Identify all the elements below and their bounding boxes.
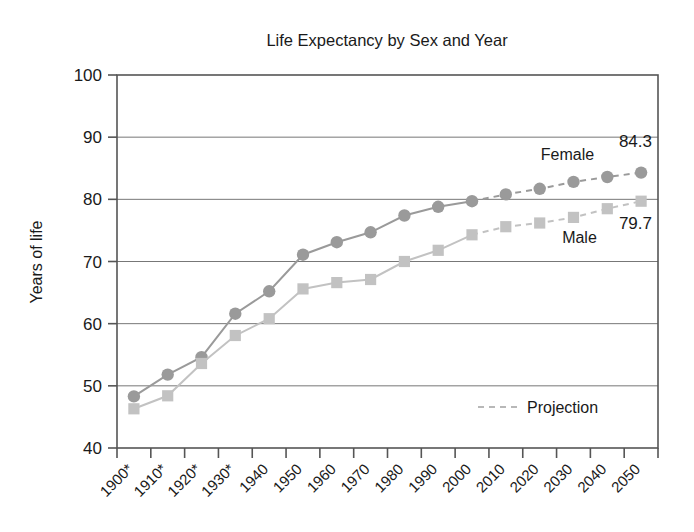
chart-title: Life Expectancy by Sex and Year [266, 31, 508, 49]
x-tick-label: 2010 [472, 460, 508, 496]
data-point-female [432, 201, 444, 213]
annotation-layer: FemaleMale84.379.7 [541, 132, 652, 247]
data-point-female [635, 166, 647, 178]
data-point-male [500, 221, 511, 232]
x-tick-label: 2040 [574, 460, 610, 496]
x-tick-label: 1910* [130, 460, 170, 500]
data-point-female [364, 226, 376, 238]
data-point-female [162, 368, 174, 380]
data-point-male [399, 256, 410, 267]
series-line-female [134, 201, 472, 396]
series-annotation-male: Male [562, 229, 597, 246]
y-tick-label: 70 [83, 253, 102, 272]
data-point-female [297, 249, 309, 261]
data-point-female [567, 176, 579, 188]
x-tick-label: 1900* [96, 460, 136, 500]
x-tick-label: 1920* [164, 460, 204, 500]
data-point-female [331, 236, 343, 248]
x-tick-label: 1940 [236, 460, 272, 496]
data-point-male [331, 277, 342, 288]
data-point-male [264, 313, 275, 324]
data-point-female [398, 209, 410, 221]
chart-legend: Projection [478, 399, 598, 416]
data-point-male [568, 212, 579, 223]
x-tick-label: 2030 [540, 460, 576, 496]
x-axis-ticks [117, 448, 658, 458]
x-tick-label: 1970 [337, 460, 373, 496]
data-point-male [365, 274, 376, 285]
data-point-male [196, 358, 207, 369]
data-point-male [602, 203, 613, 214]
data-point-female [500, 188, 512, 200]
series-projection-female [472, 173, 641, 202]
life-expectancy-line-chart: Life Expectancy by Sex and Year Years of… [0, 0, 694, 532]
data-point-female [466, 195, 478, 207]
series-projection-male [472, 201, 641, 235]
data-point-male [297, 283, 308, 294]
x-axis-tick-labels: 1900*1910*1920*1930*19401950196019701980… [96, 460, 643, 500]
data-point-male [466, 229, 477, 240]
x-tick-label: 2000 [439, 460, 475, 496]
x-tick-label: 2050 [608, 460, 644, 496]
data-point-male [433, 245, 444, 256]
data-point-female [128, 390, 140, 402]
data-point-female [601, 171, 613, 183]
data-point-female [534, 183, 546, 195]
series-annotation-female: Female [541, 146, 594, 163]
y-axis-tick-labels: 405060708090100 [74, 66, 102, 458]
x-tick-label: 1950 [269, 460, 305, 496]
series-line-male [134, 235, 472, 409]
data-point-male [230, 330, 241, 341]
y-tick-label: 100 [74, 66, 102, 85]
data-point-male [534, 217, 545, 228]
x-tick-label: 1930* [198, 460, 238, 500]
y-tick-label: 80 [83, 190, 102, 209]
y-axis-ticks [108, 75, 117, 448]
x-tick-label: 1980 [371, 460, 407, 496]
data-point-male [636, 196, 647, 207]
y-tick-label: 60 [83, 315, 102, 334]
x-tick-label: 1990 [405, 460, 441, 496]
legend-label-projection: Projection [527, 399, 598, 416]
data-point-female [263, 285, 275, 297]
y-axis-title: Years of life [28, 220, 45, 303]
x-tick-label: 1960 [303, 460, 339, 496]
gridlines [117, 137, 658, 386]
y-tick-label: 50 [83, 377, 102, 396]
value-label-male: 79.7 [619, 214, 652, 233]
y-tick-label: 40 [83, 439, 102, 458]
x-tick-label: 2020 [506, 460, 542, 496]
data-point-female [229, 308, 241, 320]
chart-container: Life Expectancy by Sex and Year Years of… [0, 0, 694, 532]
data-point-male [128, 403, 139, 414]
series-layer [128, 166, 648, 414]
value-label-female: 84.3 [619, 132, 652, 151]
data-point-male [162, 390, 173, 401]
y-tick-label: 90 [83, 128, 102, 147]
